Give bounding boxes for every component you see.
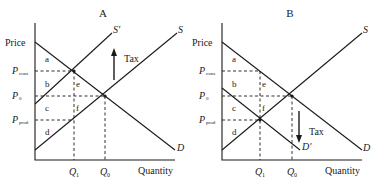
- tax-incidence-diagrams: A Tax S' S D Price P cons P 0 P prod a: [0, 0, 379, 185]
- panel-a-area-c: c: [45, 103, 49, 113]
- panel-b-x-axis-label: Quantity: [325, 165, 360, 176]
- panel-a-shifted-supply-label: S': [113, 24, 121, 35]
- panel-a-p0-subscript: 0: [19, 96, 22, 101]
- panel-a-supply-curve: [35, 33, 177, 150]
- panel-b-title: B: [286, 7, 293, 19]
- panel-b-point-equilibrium: [290, 94, 293, 97]
- panel-b-p-cons-label: P: [198, 65, 205, 76]
- panel-a-tax-arrowhead-icon: [111, 48, 117, 56]
- panel-b-p-cons-subscript: cons: [206, 71, 215, 76]
- panel-b-area-d: d: [232, 127, 237, 137]
- panel-b-q0-subscript: 0: [294, 172, 297, 178]
- panel-a-area-e: e: [76, 79, 80, 89]
- panel-a-p-cons-label: P: [11, 65, 18, 76]
- panel-b-supply-label: S: [363, 24, 368, 35]
- panel-a-p0-label: P: [11, 90, 18, 101]
- panel-a-q1-subscript: 1: [76, 172, 79, 178]
- panel-a-p-prod-subscript: prod: [19, 120, 29, 125]
- panel-a-x-axis-label: Quantity: [138, 165, 173, 176]
- panel-a-axes: [35, 23, 175, 160]
- panel-a: A Tax S' S D Price P cons P 0 P prod a: [5, 7, 185, 178]
- panel-b-shifted-demand-label: D': [301, 141, 312, 152]
- panel-b-area-f: f: [262, 103, 265, 113]
- panel-b-p0-label: P: [198, 90, 205, 101]
- panel-b-area-e: e: [262, 79, 266, 89]
- panel-b-point-prod: [258, 118, 261, 121]
- panel-a-supply-label: S: [178, 24, 183, 35]
- panel-b-y-axis-label: Price: [192, 37, 213, 48]
- panel-a-area-f: f: [76, 103, 79, 113]
- panel-b-p-prod-label: P: [198, 114, 205, 125]
- panel-a-shifted-supply-curve: [35, 33, 112, 104]
- panel-a-q0-subscript: 0: [107, 172, 110, 178]
- panel-a-p-prod-label: P: [11, 114, 18, 125]
- panel-a-area-a: a: [45, 54, 49, 64]
- panel-a-demand-label: D: [176, 142, 185, 153]
- panel-b-p0-subscript: 0: [206, 96, 209, 101]
- panel-a-tax-label: Tax: [124, 53, 139, 64]
- panel-a-point-equilibrium: [103, 94, 106, 97]
- panel-a-area-d: d: [45, 127, 50, 137]
- panel-b-area-b: b: [232, 79, 237, 89]
- panel-b: B Tax S D D' Price P cons P 0 P prod a b…: [192, 7, 371, 178]
- panel-b-q1-subscript: 1: [262, 172, 265, 178]
- panel-a-p-cons-subscript: cons: [19, 71, 28, 76]
- panel-b-area-a: a: [232, 54, 236, 64]
- panel-b-demand-label: D: [362, 142, 371, 153]
- panel-a-area-b: b: [45, 79, 50, 89]
- panel-b-supply-curve: [222, 33, 362, 150]
- panel-b-area-c: c: [232, 103, 236, 113]
- panel-a-point-cons: [72, 69, 75, 72]
- panel-b-tax-label: Tax: [309, 126, 324, 137]
- panel-a-y-axis-label: Price: [5, 37, 26, 48]
- panel-a-title: A: [99, 7, 107, 19]
- panel-b-p-prod-subscript: prod: [206, 120, 216, 125]
